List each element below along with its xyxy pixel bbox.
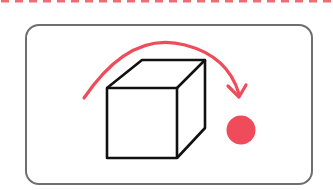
rotate-cube-illustration bbox=[0, 0, 333, 190]
dot-icon bbox=[227, 116, 256, 145]
cube-icon bbox=[107, 60, 205, 158]
